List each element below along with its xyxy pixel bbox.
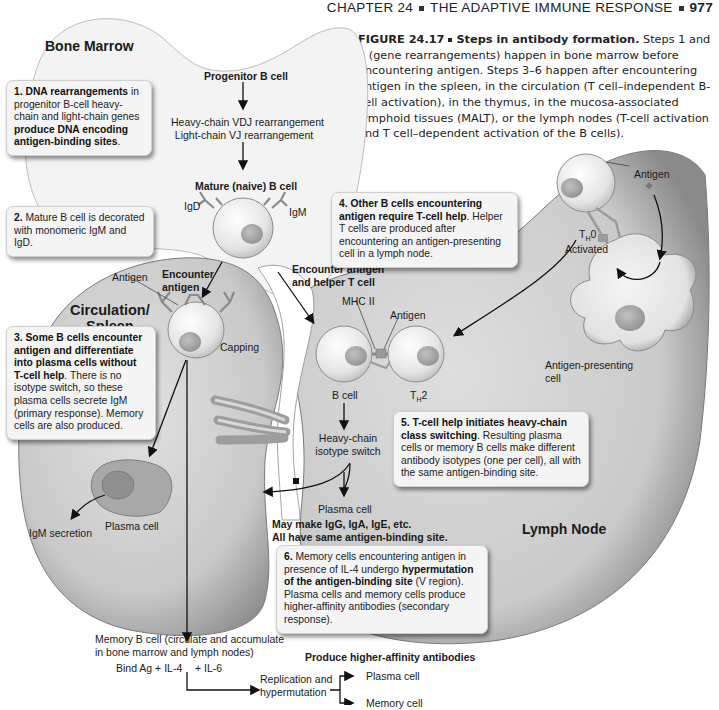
step-2-number: 2. [14,212,23,223]
label-replication-line2: hypermutation [260,686,332,699]
label-antigen-apc: Antigen [634,168,670,181]
label-igm-secretion: IgM secretion [29,527,92,540]
b-cell-lymph [316,326,372,382]
th0-suffix: 0 [590,228,596,240]
step-5-number: 5. [401,417,410,428]
label-plasma-cell-mid: Plasma cell [318,503,372,516]
label-igm: IgM [289,206,307,219]
label-mature-b-cell: Mature (naive) B cell [195,180,297,193]
step-4-box: 4. Other B cells encountering antigen re… [331,192,518,268]
step-1-text2: . [118,136,121,147]
region-circulation-label: Circulation/ [70,302,150,318]
region-bone-marrow: Bone Marrow [45,38,134,54]
step-3-box: 3. Some B cells encounter antigen and di… [6,326,156,440]
label-antigen-lymph: Antigen [390,309,426,322]
label-plasma-cell-left: Plasma cell [105,520,159,533]
label-mhc-ii: MHC II [342,295,375,308]
plasma-cell-left [91,460,172,516]
th0-cell [557,154,615,212]
step-3-number: 3. [14,332,23,343]
label-antigen-circulation: Antigen [112,271,148,284]
label-helper-t-cell: and helper T cell [292,276,384,289]
step-1-bold2: produce DNA encoding antigen-binding sit… [14,124,128,148]
label-isotype-switch-line2: isotype switch [310,445,386,458]
label-isotype-switch: Heavy-chain isotype switch [310,432,386,457]
label-antigen: antigen [162,281,214,294]
label-gene-rearrangement: Heavy-chain VDJ rearrangement Light-chai… [171,116,317,141]
label-b-cell: B cell [332,389,358,402]
label-bind-ag: Bind Ag + IL-4 [116,662,182,675]
label-heavy-chain-vdj: Heavy-chain VDJ rearrangement [171,116,317,129]
step-2-box: 2. Mature B cell is decorated with monom… [6,206,154,257]
step-6-box: 6. Memory cells encountering antigen in … [276,545,488,634]
label-apc-line2: cell [545,372,633,385]
circulation-spleen-region [19,258,283,636]
th2-suffix: 2 [421,389,427,401]
label-progenitor-b-cell: Progenitor B cell [204,70,288,83]
label-memory-b-cell-line2: in bone marrow and lymph nodes) [95,646,284,659]
label-output-plasma-cell: Plasma cell [366,670,420,683]
label-il6: + IL-6 [195,662,222,675]
label-all-have: All have same antigen-binding site. [272,531,448,544]
step-5-box: 5. T-cell help initiates heavy-chain cla… [393,411,589,487]
th2-cell [388,326,444,382]
step-2-text: Mature B cell is decorated with monomeri… [14,212,145,248]
label-may-make: May make IgG, IgA, IgE, etc. [272,518,448,531]
label-encounter: Encounter [162,268,214,281]
region-lymph-node: Lymph Node [522,521,606,537]
label-memory-b-cell-line1: Memory B cell (circulate and accumulate [95,633,284,646]
label-heavy-chain: Heavy-chain [310,432,386,445]
label-encounter-antigen: Encounter antigen [162,268,214,293]
label-produce-higher-affinity: Produce higher-affinity antibodies [305,651,475,664]
label-replication-line1: Replication and [260,673,332,686]
step-4-number: 4. [339,198,348,209]
label-apc: Antigen-presenting cell [545,359,633,384]
label-apc-line1: Antigen-presenting [545,359,633,372]
label-isotypes: May make IgG, IgA, IgE, etc. All have sa… [272,518,448,543]
step-1-number: 1. [14,86,23,97]
block-marker [293,478,299,484]
label-light-chain-vj: Light-chain VJ rearrangement [171,129,317,142]
step-6-number: 6. [284,551,293,562]
step-4-bold: Other B cells encountering antigen requi… [339,198,482,222]
step-1-bold: DNA rearrangements [25,86,128,97]
label-memory-b-cell: Memory B cell (circulate and accumulate … [95,633,284,658]
label-activated: Activated [565,243,608,256]
label-igd: IgD [184,200,200,213]
label-capping: Capping [220,341,259,354]
label-replication: Replication and hypermutation [260,673,332,698]
label-th2: TH2 [410,389,427,407]
step-1-box: 1. DNA rearrangements in progenitor B-ce… [6,80,152,156]
label-output-memory-cell: Memory cell [366,697,423,710]
